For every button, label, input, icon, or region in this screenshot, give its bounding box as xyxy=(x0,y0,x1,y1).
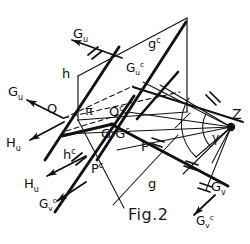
label-gu-left: Gu xyxy=(8,85,23,98)
label-G-Gc: G·Gc xyxy=(101,127,130,140)
diagram-canvas xyxy=(0,0,250,244)
label-P-c: Pc xyxy=(91,162,103,175)
label-h: h xyxy=(62,67,70,80)
label-g: g xyxy=(148,177,156,190)
arrow-gvc-left xyxy=(57,182,86,201)
label-gu-top: Gu xyxy=(73,27,88,40)
label-h-c: hc xyxy=(63,148,76,161)
label-gamma: γ xyxy=(212,132,219,144)
label-hu-upper: Hu xyxy=(6,136,21,149)
arrow-gvc-right xyxy=(194,195,215,215)
label-gu-c: Guc xyxy=(126,62,144,74)
figure-container: Gu Gu Hu Hu Q Qc π h hc g gc Guc Gvc Gvc… xyxy=(0,0,250,244)
label-Q: Q xyxy=(47,102,57,115)
label-g-c: gc xyxy=(148,37,161,50)
label-gv-c-right: Gvc xyxy=(196,215,214,227)
label-gv: Gv xyxy=(211,180,226,193)
arrow-gu-left xyxy=(27,100,63,118)
label-P: P xyxy=(141,140,149,153)
label-pi: π xyxy=(85,104,93,117)
label-Z: Z xyxy=(232,107,242,121)
label-hu-lower: Hu xyxy=(24,177,39,190)
label-gv-c-left: Gvc xyxy=(39,198,57,210)
point-Z xyxy=(227,123,235,131)
figure-caption: Fig.2 xyxy=(128,207,168,223)
label-Q-c: Qc xyxy=(109,105,124,118)
